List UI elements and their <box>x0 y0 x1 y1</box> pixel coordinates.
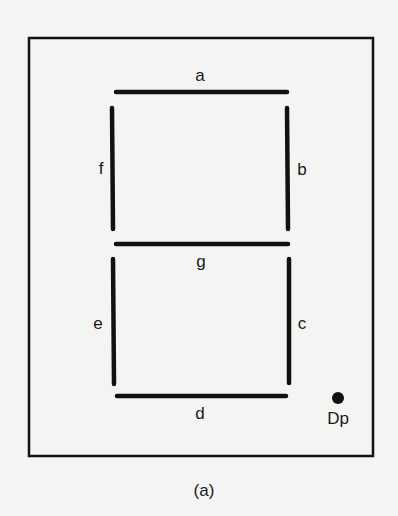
label-a: a <box>195 66 204 86</box>
label-b: b <box>297 160 306 180</box>
segment-b <box>287 108 288 229</box>
label-decimal-point: Dp <box>327 409 349 429</box>
label-f: f <box>99 159 104 179</box>
figure-caption: (a) <box>194 481 215 501</box>
segment-f <box>112 108 113 229</box>
decimal-point-dot <box>332 392 344 404</box>
label-c: c <box>298 314 307 334</box>
outer-frame <box>29 38 373 456</box>
label-d: d <box>195 404 204 424</box>
label-g: g <box>196 252 205 272</box>
segment-e <box>113 259 114 384</box>
label-e: e <box>93 314 102 334</box>
